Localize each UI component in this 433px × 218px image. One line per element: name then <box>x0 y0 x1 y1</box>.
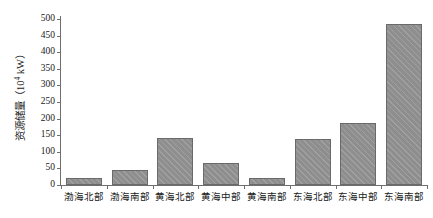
y-tick-mark <box>57 85 61 86</box>
x-tick-mark <box>336 185 337 189</box>
y-axis-title-exponent: 4 <box>13 77 22 81</box>
x-tick-mark <box>427 185 428 189</box>
y-tick-mark <box>57 36 61 37</box>
y-axis-title-main: 资源储量（10 <box>15 81 26 142</box>
x-axis-label: 黄海中部 <box>198 191 244 204</box>
y-tick-label: 350 <box>41 62 55 75</box>
y-tick-label: 400 <box>41 45 55 58</box>
bar-chart: 资源储量（104 kW） 050100150200250300350400450… <box>0 0 433 218</box>
y-tick-label: 450 <box>41 29 55 42</box>
x-tick-mark <box>61 185 62 189</box>
y-tick-mark <box>57 135 61 136</box>
x-axis-label: 东海南部 <box>381 191 427 204</box>
plot-area: 050100150200250300350400450500 <box>61 19 427 185</box>
y-tick-mark <box>57 168 61 169</box>
y-tick-label: 200 <box>41 112 55 125</box>
x-axis-label: 黄海北部 <box>153 191 199 204</box>
x-tick-mark <box>290 185 291 189</box>
bar <box>157 138 193 185</box>
y-tick-label: 100 <box>41 145 55 158</box>
y-tick-mark <box>57 69 61 70</box>
x-tick-mark <box>153 185 154 189</box>
bar <box>386 24 422 185</box>
bar <box>203 163 239 185</box>
y-tick-label: 300 <box>41 78 55 91</box>
x-tick-mark <box>107 185 108 189</box>
y-tick-label: 500 <box>41 12 55 25</box>
y-tick-mark <box>57 152 61 153</box>
y-tick-mark <box>57 119 61 120</box>
bar <box>295 139 331 185</box>
bar <box>340 123 376 185</box>
bar <box>66 178 102 185</box>
x-axis-label: 东海中部 <box>336 191 382 204</box>
y-tick-label: 50 <box>46 161 56 174</box>
x-axis-label: 东海北部 <box>290 191 336 204</box>
x-tick-mark <box>381 185 382 189</box>
x-axis-label: 渤海南部 <box>107 191 153 204</box>
x-tick-mark <box>244 185 245 189</box>
x-tick-mark <box>198 185 199 189</box>
y-tick-mark <box>57 19 61 20</box>
y-tick-label: 250 <box>41 95 55 108</box>
y-tick-label: 150 <box>41 128 55 141</box>
y-tick-mark <box>57 102 61 103</box>
y-axis-title-tail: kW） <box>15 49 26 77</box>
bar <box>112 170 148 185</box>
x-axis-label: 渤海北部 <box>61 191 107 204</box>
y-axis-title: 资源储量（104 kW） <box>14 10 28 180</box>
bar <box>249 178 285 185</box>
x-axis-label: 黄海南部 <box>244 191 290 204</box>
y-tick-mark <box>57 52 61 53</box>
y-tick-label: 0 <box>50 178 55 191</box>
